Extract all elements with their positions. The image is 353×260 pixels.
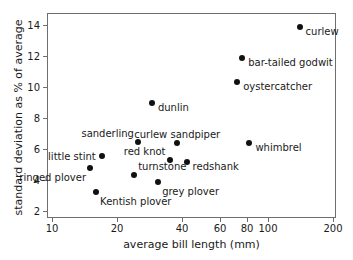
- x-tick-label: 40: [176, 223, 189, 234]
- data-point: [135, 139, 141, 145]
- data-point-label: turnstone: [138, 161, 186, 172]
- data-point: [297, 24, 303, 30]
- x-tick-label: 100: [258, 223, 277, 234]
- data-point-label: Kentish plover: [100, 195, 171, 206]
- y-tick-mark: [43, 25, 47, 26]
- y-tick-mark: [43, 118, 47, 119]
- x-tick-label: 200: [323, 223, 342, 234]
- data-point: [99, 153, 105, 159]
- data-point-label: redshank: [193, 161, 239, 172]
- data-point-label: ringed plover: [19, 172, 86, 183]
- x-tick-mark: [117, 218, 118, 222]
- x-tick-label: 80: [241, 223, 254, 234]
- y-tick-label: 8: [24, 113, 40, 124]
- x-tick-mark: [220, 218, 221, 222]
- y-tick-mark: [43, 56, 47, 57]
- y-axis-title: standard deviation as % of average: [12, 15, 25, 220]
- y-tick-mark: [43, 87, 47, 88]
- data-point-label: bar-tailed godwit: [248, 56, 333, 67]
- x-tick-label: 10: [46, 223, 59, 234]
- data-point-label: dunlin: [158, 101, 189, 112]
- data-point-label: little stint: [48, 150, 96, 161]
- data-point-label: curlew sandpiper: [134, 128, 220, 139]
- data-point-label: sanderling: [81, 128, 134, 139]
- scatter-plot-figure: 1020406080100200 2468101214 curlewbar-ta…: [0, 0, 353, 260]
- data-point-label: oystercatcher: [243, 81, 312, 92]
- data-point-label: curlew: [306, 25, 339, 36]
- y-tick-mark: [43, 211, 47, 212]
- data-point-label: whimbrel: [255, 141, 301, 152]
- data-point: [155, 179, 161, 185]
- x-axis-title: average bill length (mm): [47, 238, 336, 251]
- x-tick-mark: [268, 218, 269, 222]
- y-tick-label: 14: [24, 20, 40, 31]
- data-point: [87, 165, 93, 171]
- y-tick-label: 10: [24, 82, 40, 93]
- data-point: [149, 100, 155, 106]
- y-tick-label: 6: [24, 144, 40, 155]
- data-point: [246, 140, 252, 146]
- x-tick-label: 20: [111, 223, 124, 234]
- x-tick-mark: [247, 218, 248, 222]
- data-point-label: red knot: [124, 145, 166, 156]
- data-point: [234, 79, 240, 85]
- y-tick-label: 12: [24, 51, 40, 62]
- y-tick-mark: [43, 149, 47, 150]
- x-tick-mark: [182, 218, 183, 222]
- x-tick-mark: [333, 218, 334, 222]
- data-point: [93, 189, 99, 195]
- x-tick-mark: [52, 218, 53, 222]
- y-tick-label: 2: [24, 206, 40, 217]
- data-point: [239, 55, 245, 61]
- data-point: [174, 140, 180, 146]
- x-tick-label: 60: [214, 223, 227, 234]
- data-point: [131, 172, 137, 178]
